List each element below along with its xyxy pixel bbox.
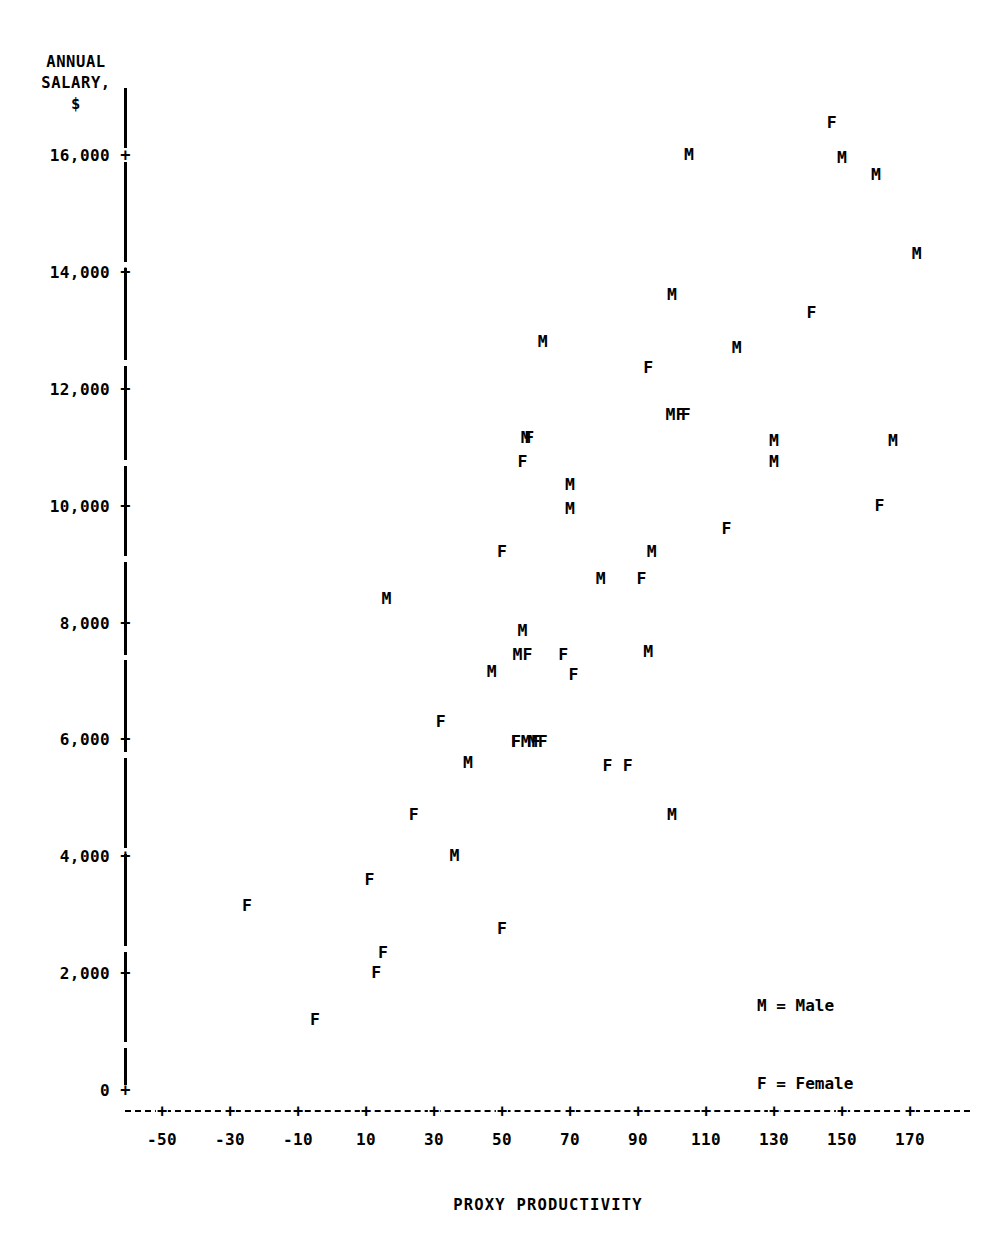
x-tick-mark: + — [292, 1103, 304, 1120]
data-point-m: M — [647, 544, 657, 561]
data-point-m: M — [912, 246, 922, 263]
y-tick-mark: + — [120, 145, 130, 165]
x-tick-mark: + — [632, 1103, 644, 1120]
data-point-f: F — [409, 807, 419, 824]
data-point-f: F — [511, 734, 521, 751]
data-point-f: F — [602, 757, 612, 774]
x-tick-label: 170 — [895, 1130, 925, 1149]
data-point-m: M — [667, 287, 677, 304]
y-tick-label: 10,000 — [0, 496, 110, 515]
x-tick-label: 10 — [356, 1130, 376, 1149]
data-point-f: F — [681, 407, 691, 424]
y-tick-mark: + — [120, 379, 130, 399]
data-point-combined: MF — [512, 646, 532, 663]
data-point-m: M — [769, 454, 779, 471]
data-point-m: M — [871, 167, 881, 184]
y-axis-segment — [124, 854, 127, 946]
x-tick-mark: + — [360, 1103, 372, 1120]
data-point-f: F — [242, 898, 252, 915]
data-point-f: F — [558, 646, 568, 663]
y-tick-mark: + — [120, 963, 130, 983]
y-tick-label: 8,000 — [0, 613, 110, 632]
x-tick-label: 50 — [492, 1130, 512, 1149]
y-tick-mark: + — [120, 262, 130, 282]
data-point-m: M — [643, 643, 653, 660]
x-tick-mark: + — [428, 1103, 440, 1120]
data-point-m: M — [684, 147, 694, 164]
data-point-f: F — [436, 714, 446, 731]
y-tick-label: 12,000 — [0, 379, 110, 398]
data-point-f: F — [378, 944, 388, 961]
data-point-f: F — [721, 521, 731, 538]
x-tick-mark: + — [224, 1103, 236, 1120]
data-point-m: M — [517, 623, 527, 640]
y-tick-label: 4,000 — [0, 847, 110, 866]
data-point-m: M — [565, 477, 575, 494]
x-axis-title: PROXY PRODUCTIVITY — [453, 1196, 643, 1214]
y-tick-mark: + — [120, 496, 130, 516]
data-point-f: F — [643, 360, 653, 377]
data-point-f: F — [497, 544, 507, 561]
y-tick-mark: + — [120, 613, 130, 633]
x-tick-mark: + — [156, 1103, 168, 1120]
data-point-m: M — [487, 664, 497, 681]
data-point-m: M — [837, 150, 847, 167]
data-point-m: M — [596, 570, 606, 587]
x-tick-mark: + — [564, 1103, 576, 1120]
data-point-f: F — [806, 305, 816, 322]
y-axis-segment — [124, 562, 127, 655]
legend-item-female: F = Female — [757, 1071, 853, 1097]
data-point-m: M — [538, 334, 548, 351]
x-tick-mark: + — [904, 1103, 916, 1120]
y-tick-label: 14,000 — [0, 262, 110, 281]
data-point-m: M — [449, 848, 459, 865]
x-tick-label: 110 — [691, 1130, 721, 1149]
data-point-f: F — [827, 115, 837, 132]
data-point-f: F — [497, 921, 507, 938]
y-axis-segment — [124, 758, 127, 848]
data-point-m: M — [732, 340, 742, 357]
x-tick-mark: + — [496, 1103, 508, 1120]
scatter-plot: ANNUAL SALARY, $ 0+2,000+4,000+6,000+8,0… — [0, 0, 1003, 1252]
x-tick-label: 90 — [628, 1130, 648, 1149]
data-point-m: M — [888, 433, 898, 450]
data-point-f: F — [517, 454, 527, 471]
x-tick-mark: + — [700, 1103, 712, 1120]
x-tick-label: -50 — [147, 1130, 177, 1149]
y-tick-mark: + — [120, 1080, 130, 1100]
data-point-m: M — [528, 734, 538, 751]
data-point-f: F — [636, 570, 646, 587]
data-point-f: F — [364, 871, 374, 888]
legend-item-male: M = Male — [757, 993, 853, 1019]
data-point-m: M — [565, 500, 575, 517]
data-point-f: F — [371, 965, 381, 982]
x-tick-label: -30 — [215, 1130, 245, 1149]
x-tick-label: -10 — [283, 1130, 313, 1149]
legend: M = Male F = Female — [757, 941, 853, 1149]
x-tick-label: 70 — [560, 1130, 580, 1149]
data-point-f: F — [874, 497, 884, 514]
y-tick-label: 6,000 — [0, 730, 110, 749]
x-tick-label: 30 — [424, 1130, 444, 1149]
y-tick-label: 16,000 — [0, 146, 110, 165]
data-point-f: F — [538, 734, 548, 751]
y-tick-label: 2,000 — [0, 964, 110, 983]
data-point-m: M — [463, 755, 473, 772]
y-tick-mark: + — [120, 846, 130, 866]
data-point-f: F — [310, 1012, 320, 1029]
y-axis-segment — [124, 88, 127, 148]
data-point-f: F — [568, 667, 578, 684]
data-point-f: F — [524, 430, 534, 447]
y-tick-mark: + — [120, 729, 130, 749]
data-point-m: M — [381, 591, 391, 608]
y-tick-label: 0 — [0, 1081, 110, 1100]
y-axis-segment — [124, 162, 127, 262]
y-axis-title: ANNUAL SALARY, $ — [30, 52, 122, 115]
data-point-m: M — [769, 433, 779, 450]
data-point-f: F — [623, 757, 633, 774]
data-point-m: M — [667, 807, 677, 824]
